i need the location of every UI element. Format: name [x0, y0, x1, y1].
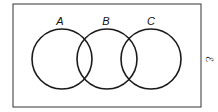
venn-diagram: A B C ℰ — [0, 0, 218, 112]
universal-set-symbol: ℰ — [204, 56, 215, 62]
set-c-circle — [121, 29, 181, 89]
set-a-circle — [32, 29, 92, 89]
set-a-label: A — [55, 15, 63, 27]
set-b-label: B — [102, 15, 109, 27]
set-b-circle — [77, 29, 137, 89]
set-c-label: C — [147, 15, 155, 27]
